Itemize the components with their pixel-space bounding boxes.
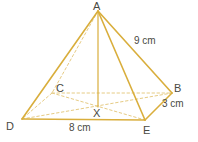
measure-label-base-length: 8 cm [69,123,91,133]
vertex-label-a: A [93,1,100,12]
vertex-label-d: D [6,121,14,132]
hidden-edges-group [22,11,172,120]
visible-edges-group [22,11,172,120]
vertex-label-b: B [174,83,181,94]
edge-A-B [98,11,172,93]
vertex-label-e: E [143,125,150,136]
vertex-label-c: C [56,83,64,94]
measure-label-base-width: 3 cm [162,99,184,109]
pyramid-diagram: A B C D E X 9 cm 3 cm 8 cm [0,0,198,142]
edge-A-C [52,11,98,93]
edge-D-E [22,119,145,120]
measure-label-slant-edge: 9 cm [134,36,156,46]
pyramid-svg [0,0,198,142]
edge-A-E [98,11,145,120]
vertex-label-x: X [93,108,100,119]
